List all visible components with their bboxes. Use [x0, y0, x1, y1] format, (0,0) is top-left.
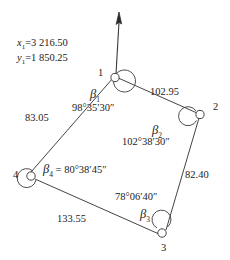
station-label-3: 3 [161, 243, 166, 254]
traverse-polygon [31, 77, 199, 234]
station-label-4: 4 [13, 170, 18, 181]
angle-symbol-beta3: β3 [140, 208, 150, 223]
side-4-1 [31, 78, 113, 172]
y-value: 1 850.25 [31, 52, 68, 63]
angle-symbol-beta1: β1 [90, 88, 100, 103]
traverse-diagram: x1=3 216.50 y1=1 850.25 1 2 3 4 β1 β2 β3… [0, 0, 230, 260]
angle-value-beta2: 102°38′30″ [122, 137, 170, 148]
station-label-1: 1 [98, 68, 103, 79]
station-marker-1 [111, 70, 136, 92]
station-1-y-coordinate: y1=1 850.25 [17, 53, 68, 66]
station-marker-4 [17, 169, 36, 188]
north-direction-arrow [116, 12, 122, 74]
side-length-4-1: 83.05 [25, 113, 49, 124]
beta4-symbol: β4 [43, 162, 53, 176]
beta4-subscript: 4 [49, 170, 53, 179]
side-length-2-3: 82.40 [185, 170, 209, 181]
beta4-equals: = [56, 164, 62, 175]
angle-value-beta1: 98°35′30″ [72, 103, 114, 114]
side-length-3-4: 133.55 [57, 214, 86, 225]
side-length-1-2: 102.95 [150, 87, 179, 98]
angle-value-beta3: 78°06′40″ [115, 192, 157, 203]
station-1-x-coordinate: x1=3 216.50 [17, 38, 68, 51]
x-value: 3 216.50 [31, 37, 68, 48]
angle-value-beta4: 80°38′45″ [64, 164, 106, 175]
station-marker-2 [179, 107, 205, 126]
station-label-2: 2 [213, 102, 218, 113]
beta3-subscript: 3 [146, 215, 150, 224]
angle-label-beta4: β4 = 80°38′45″ [43, 163, 107, 178]
